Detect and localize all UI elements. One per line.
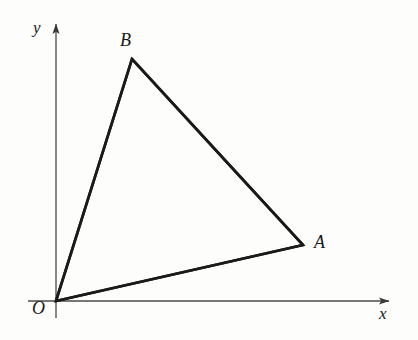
figure-canvas: [0, 0, 418, 340]
geometry-figure: y x O B A: [0, 0, 418, 340]
x-axis-label: x: [379, 305, 387, 322]
origin-label: O: [32, 299, 45, 317]
edge-b-a: [132, 59, 303, 245]
edge-o-b: [56, 59, 132, 301]
vertex-label-a: A: [314, 233, 325, 251]
edge-a-o: [56, 245, 303, 301]
y-axis-label: y: [33, 19, 41, 36]
vertex-label-b: B: [120, 31, 131, 49]
